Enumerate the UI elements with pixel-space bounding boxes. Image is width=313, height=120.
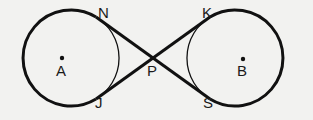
label-k: K (202, 4, 212, 21)
label-p: P (147, 62, 157, 79)
center-a-dot (60, 56, 64, 60)
center-b-dot (241, 57, 245, 61)
label-j: J (95, 94, 103, 111)
label-b: B (237, 62, 247, 79)
label-s: S (203, 94, 213, 111)
circle-a-outer-arc (23, 10, 96, 106)
label-a: A (56, 62, 66, 79)
circle-b-outer-arc (210, 10, 283, 106)
label-n: N (98, 4, 109, 21)
geometry-diagram: A B N J K S P (0, 0, 313, 120)
